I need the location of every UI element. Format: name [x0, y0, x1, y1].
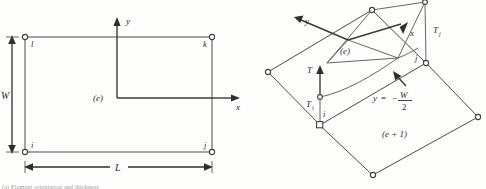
- node-i-marker: [22, 149, 27, 154]
- edge-back-left-upper: [268, 10, 372, 72]
- node-i-top-marker: [318, 95, 323, 100]
- equation-numerator: W: [400, 90, 409, 100]
- node-label-j: j: [203, 140, 207, 150]
- node-i-marker-right: [317, 122, 323, 128]
- curve-mid-surface-left: [320, 58, 398, 97]
- figure-caption: (a) Element orientation and thickness: [2, 184, 99, 189]
- figure-canvas: y x (e) l k j i W: [0, 0, 486, 189]
- dim-l-label: L: [114, 162, 121, 173]
- node-label-i: i: [31, 140, 34, 150]
- axis-y-right-head: [294, 16, 304, 24]
- node-label-i-right: i: [323, 109, 326, 119]
- node-k-marker: [209, 34, 214, 39]
- node-j-top-marker: [423, 0, 428, 4]
- vertex-left-marker: [265, 69, 270, 74]
- panel-right-group: y x (e) (e + 1) T T i T j i j y: [265, 0, 480, 178]
- node-j-marker-right: [423, 60, 428, 65]
- node-label-l: l: [31, 39, 34, 49]
- dim-w-arrow-top: [8, 35, 16, 44]
- adjacent-element-label: (e + 1): [382, 129, 407, 139]
- quad-e-plus-1: [320, 63, 478, 175]
- thickness-segment-j: [425, 2, 426, 63]
- equation-denominator: 2: [402, 102, 407, 112]
- node-l-marker: [22, 34, 27, 39]
- thickness-label-Ti-group: T i: [306, 99, 314, 111]
- figure-root: y x (e) l k j i W: [0, 0, 486, 189]
- equation-equals: =: [381, 93, 386, 103]
- axis-x-arrowhead-left: [231, 94, 240, 101]
- dim-w-arrow-bottom: [8, 145, 16, 154]
- axis-y-label-right: y: [304, 16, 309, 26]
- thickness-label-T: T: [307, 65, 313, 75]
- leader-e-to-x: [348, 40, 398, 58]
- panel-left-group: y x (e) l k j i W: [1, 16, 240, 174]
- axis-y-arrowhead-left: [113, 17, 120, 26]
- dim-w-label: W: [1, 90, 11, 101]
- equation-y-minus-w-over-2: y = − W 2: [372, 90, 412, 112]
- element-label-left: (e): [93, 93, 103, 103]
- thickness-label-Ti-sub: i: [312, 104, 314, 111]
- node-j-marker: [209, 149, 214, 154]
- node-label-k: k: [203, 39, 207, 49]
- vertex-bottom-marker: [370, 172, 375, 177]
- axis-x-right-shaft: [348, 24, 401, 40]
- thickness-label-Tj-sub: j: [438, 30, 441, 37]
- axis-x-label-left: x: [235, 102, 240, 112]
- axis-y-label-left: y: [125, 16, 130, 26]
- thickness-label-Tj-group: T j: [433, 25, 441, 37]
- axis-x-label-right: x: [409, 28, 414, 38]
- equation-lhs: y: [372, 93, 377, 103]
- vertex-right-marker: [475, 114, 480, 119]
- vertex-top-marker: [369, 7, 374, 12]
- equation-minus-sign: −: [392, 93, 397, 103]
- thickness-arrow-T-head: [316, 65, 324, 74]
- edge-back-left-lower: [268, 72, 320, 125]
- element-label-right: (e): [340, 46, 350, 56]
